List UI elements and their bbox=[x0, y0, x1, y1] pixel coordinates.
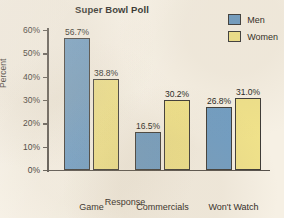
bar-men[interactable]: 16.5% bbox=[135, 132, 161, 171]
bar-value-label: 56.7% bbox=[65, 27, 89, 37]
plot-area: 56.7%38.8%Game16.5%30.2%Commercials26.8%… bbox=[48, 30, 270, 170]
y-axis-tick-label: 20% bbox=[23, 118, 40, 128]
legend-item-men[interactable]: Men bbox=[228, 14, 278, 25]
y-axis-tick-label: 30% bbox=[23, 95, 40, 105]
bar-value-label: 30.2% bbox=[165, 89, 189, 99]
legend-label-men: Men bbox=[247, 15, 265, 25]
y-axis-tick-label: 40% bbox=[23, 72, 40, 82]
bar-value-label: 31.0% bbox=[236, 87, 260, 97]
bar-women[interactable]: 30.2% bbox=[164, 100, 190, 170]
bar-value-label: 16.5% bbox=[136, 121, 160, 131]
y-axis-tick bbox=[43, 170, 48, 171]
bar-men[interactable]: 56.7% bbox=[64, 38, 90, 170]
bar-group: 16.5%30.2% bbox=[135, 30, 190, 170]
bar-men[interactable]: 26.8% bbox=[206, 107, 232, 170]
y-axis-tick-label: 0% bbox=[28, 165, 40, 175]
bar-group: 56.7%38.8% bbox=[64, 30, 119, 170]
legend-swatch-men-icon bbox=[228, 14, 241, 25]
x-axis-title: Response bbox=[0, 197, 250, 207]
bar-value-label: 26.8% bbox=[207, 96, 231, 106]
bar-women[interactable]: 38.8% bbox=[93, 79, 119, 170]
y-axis-title: Percent bbox=[0, 59, 8, 88]
y-axis-tick-label: 60% bbox=[23, 25, 40, 35]
y-axis-tick-label: 50% bbox=[23, 48, 40, 58]
bar-value-label: 38.8% bbox=[94, 68, 118, 78]
bar-group: 26.8%31.0% bbox=[206, 30, 261, 170]
y-axis-tick-label: 10% bbox=[23, 142, 40, 152]
bar-women[interactable]: 31.0% bbox=[235, 98, 261, 170]
chart-title: Super Bowl Poll bbox=[0, 4, 224, 15]
bar-chart: Super Bowl Poll Men Women 0%10%20%30%40%… bbox=[0, 0, 284, 218]
